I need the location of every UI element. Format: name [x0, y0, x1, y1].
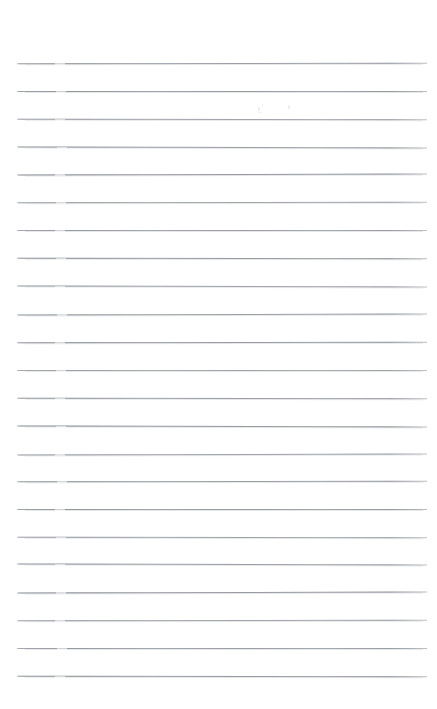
- ruled-line-break: [55, 398, 65, 400]
- ruled-line-break: [57, 481, 67, 483]
- ruled-line-break: [55, 620, 65, 622]
- ruled-line: [17, 398, 427, 400]
- ruled-line-break: [55, 509, 65, 511]
- ruled-line-break: [56, 426, 66, 428]
- ruled-line: [17, 230, 427, 231]
- ruled-line: [17, 648, 427, 649]
- ruled-line-break: [55, 63, 65, 65]
- ruled-line: [17, 91, 427, 92]
- ruled-line: [17, 370, 427, 371]
- scanner-speck: [262, 104, 263, 107]
- ruled-line: [17, 342, 427, 344]
- scanner-speck: [259, 112, 262, 113]
- ruled-line-break: [56, 91, 66, 93]
- ruled-line: [17, 509, 427, 510]
- ruled-line-break: [55, 564, 65, 566]
- ruled-line-break: [57, 648, 67, 650]
- ruled-line-break: [55, 342, 65, 344]
- ruled-line: [17, 313, 427, 315]
- ruled-line: [17, 146, 427, 148]
- ruled-line-layer: [0, 0, 437, 709]
- ruled-line: [17, 453, 427, 455]
- ruled-line: [17, 285, 427, 287]
- scanner-speck: [288, 105, 290, 109]
- ruled-line: [17, 425, 427, 427]
- ruled-line: [17, 591, 427, 593]
- ruled-line: [17, 481, 427, 483]
- ruled-line: [17, 676, 427, 678]
- ruled-line: [17, 563, 427, 565]
- ruled-line-break: [56, 592, 66, 594]
- ruled-line-break: [55, 119, 65, 121]
- ruled-line: [17, 258, 427, 260]
- ruled-line: [17, 173, 427, 175]
- ruled-line-break: [57, 147, 67, 149]
- ruled-line-break: [55, 230, 65, 232]
- ruled-line: [17, 537, 427, 539]
- ruled-line-break: [55, 676, 65, 678]
- ruled-line-break: [55, 174, 65, 176]
- ruled-line-break: [56, 370, 66, 372]
- ruled-line-break: [56, 537, 66, 539]
- ruled-line: [17, 202, 427, 204]
- ruled-line: [17, 119, 427, 121]
- scanned-page: [0, 0, 437, 709]
- ruled-line: [17, 620, 427, 622]
- ruled-line-break: [56, 258, 66, 260]
- ruled-line: [17, 63, 427, 65]
- ruled-line-break: [57, 314, 67, 316]
- ruled-line-break: [55, 454, 65, 456]
- scanner-speck: [258, 107, 260, 111]
- ruled-line-break: [55, 286, 65, 288]
- ruled-line-break: [56, 202, 66, 204]
